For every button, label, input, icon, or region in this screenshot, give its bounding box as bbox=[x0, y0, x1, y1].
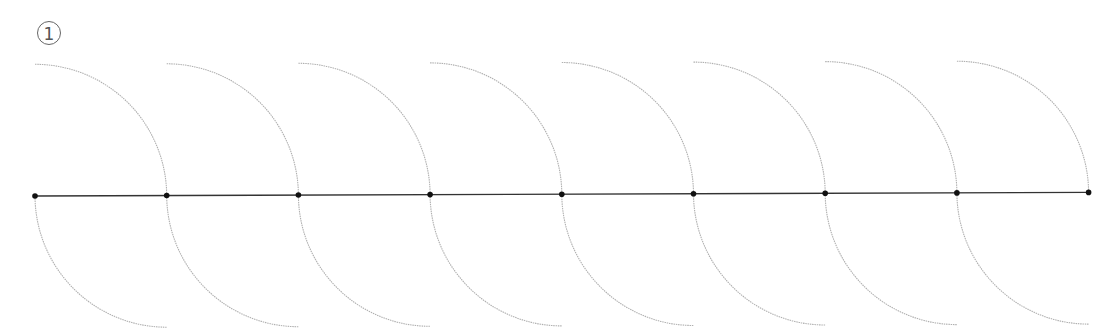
lower-arc bbox=[298, 195, 430, 326]
division-point bbox=[954, 190, 960, 196]
lower-arc bbox=[957, 193, 1089, 324]
division-point bbox=[822, 191, 828, 197]
division-point bbox=[164, 193, 170, 199]
upper-arc bbox=[430, 63, 562, 194]
construction-diagram bbox=[0, 0, 1120, 331]
upper-arc bbox=[35, 64, 167, 195]
upper-arc bbox=[562, 63, 694, 194]
upper-arc bbox=[694, 62, 826, 193]
lower-arc bbox=[35, 196, 167, 327]
division-point bbox=[32, 193, 38, 199]
upper-arc bbox=[298, 63, 430, 194]
lower-arc bbox=[167, 196, 299, 327]
lower-arc bbox=[825, 193, 957, 324]
division-point bbox=[559, 191, 565, 197]
upper-arc bbox=[957, 61, 1089, 192]
division-point bbox=[296, 192, 302, 198]
lower-arc bbox=[562, 194, 694, 325]
upper-arc bbox=[167, 64, 299, 195]
upper-arc bbox=[825, 62, 957, 193]
lower-arc bbox=[430, 195, 562, 326]
lower-arc bbox=[694, 194, 826, 325]
division-point bbox=[1086, 190, 1092, 196]
division-point bbox=[691, 191, 697, 197]
division-point bbox=[427, 192, 433, 198]
